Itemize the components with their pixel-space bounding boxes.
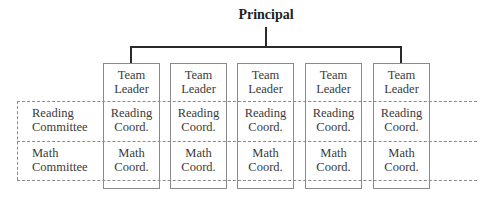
- horizontal-connector-line: [130, 46, 402, 48]
- team-leader-4: Team Leader: [305, 68, 362, 96]
- reading-coord-2: Reading Coord.: [170, 106, 227, 134]
- cell-line: Team: [237, 68, 294, 82]
- cell-line: Leader: [237, 82, 294, 96]
- cell-line: Coord.: [305, 120, 362, 134]
- cell-line: Leader: [170, 82, 227, 96]
- cell-line: Team: [103, 68, 160, 82]
- team-leader-2: Team Leader: [170, 68, 227, 96]
- cell-line: Reading: [103, 106, 160, 120]
- cell-line: Coord.: [170, 120, 227, 134]
- cell-line: Coord.: [237, 160, 294, 174]
- cell-line: Leader: [373, 82, 430, 96]
- math-coord-5: Math Coord.: [373, 146, 430, 174]
- row-label-line: Committee: [32, 120, 88, 134]
- row-label-math-committee: Math Committee: [32, 146, 88, 174]
- cell-line: Math: [373, 146, 430, 160]
- cell-line: Reading: [305, 106, 362, 120]
- committee-left-dashed-edge: [17, 101, 18, 180]
- reading-coord-5: Reading Coord.: [373, 106, 430, 134]
- cell-line: Team: [305, 68, 362, 82]
- principal-stem-line: [265, 27, 267, 48]
- cell-line: Reading: [170, 106, 227, 120]
- cell-line: Reading: [237, 106, 294, 120]
- row-label-line: Committee: [32, 160, 88, 174]
- cell-line: Coord.: [103, 160, 160, 174]
- team-leader-1: Team Leader: [103, 68, 160, 96]
- reading-coord-1: Reading Coord.: [103, 106, 160, 134]
- row-label-line: Reading: [32, 106, 88, 120]
- branch-line-5: [400, 46, 402, 63]
- cell-line: Reading: [373, 106, 430, 120]
- math-coord-4: Math Coord.: [305, 146, 362, 174]
- row-label-reading-committee: Reading Committee: [32, 106, 88, 134]
- team-leader-3: Team Leader: [237, 68, 294, 96]
- cell-line: Leader: [103, 82, 160, 96]
- cell-line: Team: [373, 68, 430, 82]
- cell-line: Coord.: [237, 120, 294, 134]
- math-coord-3: Math Coord.: [237, 146, 294, 174]
- cell-line: Coord.: [373, 160, 430, 174]
- branch-line-1: [130, 46, 132, 63]
- math-coord-2: Math Coord.: [170, 146, 227, 174]
- cell-line: Math: [103, 146, 160, 160]
- math-coord-1: Math Coord.: [103, 146, 160, 174]
- cell-line: Coord.: [170, 160, 227, 174]
- cell-line: Math: [305, 146, 362, 160]
- cell-line: Math: [170, 146, 227, 160]
- row-label-line: Math: [32, 146, 88, 160]
- cell-line: Coord.: [305, 160, 362, 174]
- cell-line: Math: [237, 146, 294, 160]
- cell-line: Coord.: [373, 120, 430, 134]
- team-leader-5: Team Leader: [373, 68, 430, 96]
- cell-line: Team: [170, 68, 227, 82]
- cell-line: Leader: [305, 82, 362, 96]
- principal-node: Principal: [216, 7, 316, 23]
- reading-coord-3: Reading Coord.: [237, 106, 294, 134]
- reading-coord-4: Reading Coord.: [305, 106, 362, 134]
- cell-line: Coord.: [103, 120, 160, 134]
